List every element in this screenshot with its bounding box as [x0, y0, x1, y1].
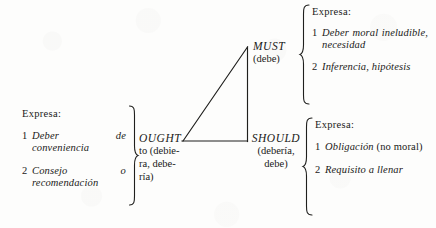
list-item: 2 Consejo o recomendación	[22, 165, 128, 190]
item-number: 2	[312, 61, 322, 73]
item-number: 2	[22, 165, 32, 177]
item-text: Obligación (no moral)	[325, 141, 429, 153]
figure-canvas: MUST (debe) OUGHT to (debie- ra, debe- r…	[0, 0, 436, 228]
item-number: 1	[22, 130, 32, 142]
item-text: Inferencia, hipótesis	[322, 61, 428, 73]
group-heading: Expresa:	[315, 119, 435, 130]
list-item: 2 Inferencia, hipótesis	[312, 61, 432, 73]
sense-group-must: Expresa: 1 Deber moral ineludible, neces…	[312, 6, 432, 82]
sense-group-should: Expresa: 1 Obligación (no moral) 2 Requi…	[315, 119, 435, 188]
ought-gloss-line-2: ra, debe-	[139, 158, 197, 170]
group-heading: Expresa:	[22, 108, 128, 119]
must-word: MUST	[253, 40, 299, 52]
should-gloss-line-1: (debería,	[247, 145, 305, 157]
group-heading: Expresa:	[312, 6, 432, 17]
ought-word: OUGHT	[139, 132, 197, 144]
modal-label-must: MUST (debe)	[253, 40, 299, 65]
item-number: 1	[315, 141, 325, 153]
sense-group-ought: Expresa: 1 Deber de conveniencia 2 Conse…	[22, 108, 128, 200]
item-text: Deber de conveniencia	[32, 130, 126, 155]
item-text: Consejo o recomendación	[32, 165, 126, 190]
item-number: 1	[312, 27, 322, 39]
item-number: 2	[315, 164, 325, 176]
should-word: SHOULD	[247, 132, 305, 144]
modal-label-ought: OUGHT to (debie- ra, debe- ría)	[139, 132, 197, 184]
item-text: Deber moral ineludible, necesidad	[322, 27, 428, 52]
item-text-italic: Obligación	[325, 141, 374, 152]
item-text: Requisito a llenar	[325, 164, 429, 176]
item-text-roman: (no moral)	[374, 141, 423, 152]
should-gloss-line-2: debe)	[247, 158, 305, 170]
list-item: 1 Deber moral ineludible, necesidad	[312, 27, 432, 52]
list-item: 2 Requisito a llenar	[315, 164, 435, 176]
list-item: 1 Obligación (no moral)	[315, 141, 435, 153]
ought-gloss-line-1: to (debie-	[139, 145, 197, 157]
list-item: 1 Deber de conveniencia	[22, 130, 128, 155]
ought-gloss-line-3: ría)	[139, 171, 197, 183]
modal-label-should: SHOULD (debería, debe)	[247, 132, 305, 170]
must-gloss: (debe)	[253, 53, 299, 65]
